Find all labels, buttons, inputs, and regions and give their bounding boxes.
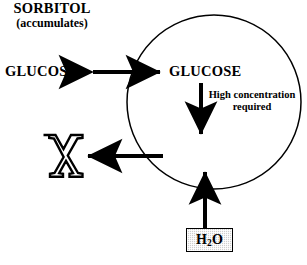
pathway-diagram: GLUCOSE GLUCOSE High concentrationrequir…	[0, 0, 307, 265]
blocked-x-symbol	[44, 135, 83, 177]
label-glucose-external: GLUCOSE	[5, 64, 77, 79]
high-conc-line-1: High concentration	[209, 89, 296, 100]
h2o-subscript: 2	[207, 238, 212, 248]
high-conc-line-2: required	[233, 101, 272, 112]
label-high-concentration-required: High concentrationrequired	[206, 89, 298, 113]
water-box: H2O	[186, 228, 233, 252]
diagram-vector-layer	[0, 0, 307, 265]
label-glucose-internal: GLUCOSE	[169, 64, 241, 79]
label-h2o: H2O	[196, 232, 223, 248]
